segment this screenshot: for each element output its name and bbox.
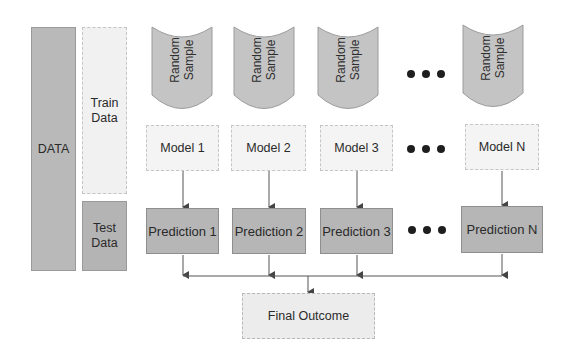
model-n-label: Model N (479, 140, 526, 155)
random-sample-label-n: Random Sample (479, 23, 507, 93)
random-sample-label-2: Random Sample (250, 25, 278, 95)
prediction-n-label: Prediction N (467, 222, 538, 237)
train-data-label: Train Data (90, 96, 118, 126)
prediction-bus-arrows (183, 254, 502, 292)
model-3-box: Model 3 (320, 125, 393, 171)
final-outcome-label: Final Outcome (268, 309, 349, 324)
ellipsis-samples (407, 70, 445, 78)
ellipsis-models (407, 145, 445, 153)
prediction-3-label: Prediction 3 (322, 224, 391, 239)
model-n-box: Model N (465, 124, 539, 170)
train-data-block: Train Data (82, 27, 127, 194)
random-sample-label-1: Random Sample (168, 25, 196, 95)
prediction-2-label: Prediction 2 (235, 224, 304, 239)
model-2-box: Model 2 (231, 125, 306, 171)
dot-icon (437, 70, 445, 78)
model-prediction-arrows (183, 171, 502, 207)
dot-icon (422, 70, 430, 78)
model-3-label: Model 3 (334, 141, 378, 156)
model-1-label: Model 1 (160, 141, 204, 156)
dot-icon (407, 145, 415, 153)
dot-icon (438, 226, 446, 234)
model-1-box: Model 1 (146, 125, 219, 171)
prediction-1-label: Prediction 1 (148, 224, 217, 239)
dot-icon (423, 226, 431, 234)
model-2-label: Model 2 (246, 141, 290, 156)
prediction-1-box: Prediction 1 (146, 208, 219, 254)
test-data-block: Test Data (82, 201, 127, 271)
prediction-n-box: Prediction N (461, 206, 543, 253)
data-label: DATA (38, 142, 69, 157)
final-outcome-box: Final Outcome (242, 293, 375, 339)
prediction-3-box: Prediction 3 (320, 208, 393, 254)
ellipsis-predictions (408, 226, 446, 234)
dot-icon (408, 226, 416, 234)
prediction-2-box: Prediction 2 (232, 208, 306, 254)
dot-icon (437, 145, 445, 153)
dot-icon (407, 70, 415, 78)
dot-icon (422, 145, 430, 153)
random-sample-label-3: Random Sample (334, 25, 362, 95)
test-data-label: Test Data (91, 221, 117, 251)
data-block: DATA (31, 27, 76, 271)
